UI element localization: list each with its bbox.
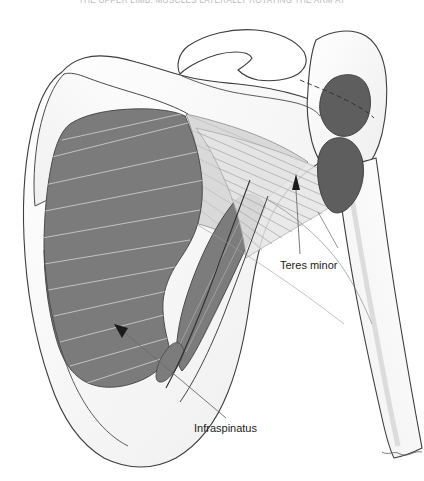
label-infraspinatus: Infraspinatus bbox=[194, 422, 257, 434]
leader-line-secondary bbox=[318, 212, 338, 248]
figure-page: THE UPPER LIMB: MUSCLES LATERALLY ROTATI… bbox=[0, 0, 424, 481]
label-teres-minor: Teres minor bbox=[280, 259, 337, 271]
anatomy-illustration bbox=[0, 0, 424, 481]
